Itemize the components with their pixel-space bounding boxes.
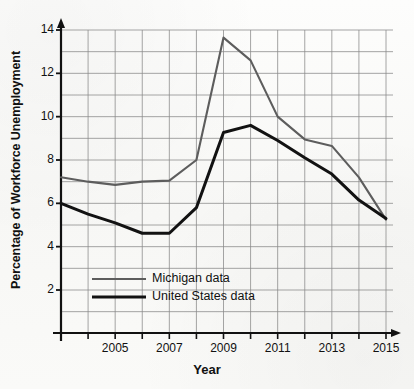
legend-label-united-states: United States data xyxy=(152,289,255,303)
legend-label-michigan: Michigan data xyxy=(152,271,230,285)
x-axis-label: Year xyxy=(0,362,414,377)
y-tick-label: 10 xyxy=(30,109,54,123)
x-tick-label: 2015 xyxy=(365,341,407,355)
x-axis-arrow-icon xyxy=(391,329,401,337)
line-chart-plot xyxy=(0,0,414,389)
x-tick-label: 2007 xyxy=(148,341,190,355)
y-tick-label: 2 xyxy=(30,282,54,296)
y-tick-label: 14 xyxy=(30,22,54,36)
x-tick-label: 2013 xyxy=(311,341,353,355)
x-tick-label: 2005 xyxy=(94,341,136,355)
y-axis-label-text: Percentage of Workforce Unemployment xyxy=(9,51,23,289)
chart-figure: Percentage of Workforce Unemployment Yea… xyxy=(0,0,414,389)
y-tick-label: 6 xyxy=(30,195,54,209)
y-axis-arrow-icon xyxy=(57,18,65,28)
x-tick-label: 2009 xyxy=(203,341,245,355)
y-tick-label: 8 xyxy=(30,152,54,166)
y-axis-label: Percentage of Workforce Unemployment xyxy=(2,0,30,340)
legend-line-swatches xyxy=(92,279,146,297)
y-tick-label: 12 xyxy=(30,65,54,79)
y-tick-label: 4 xyxy=(30,239,54,253)
x-tick-label: 2011 xyxy=(257,341,299,355)
grid-layer xyxy=(61,30,393,333)
